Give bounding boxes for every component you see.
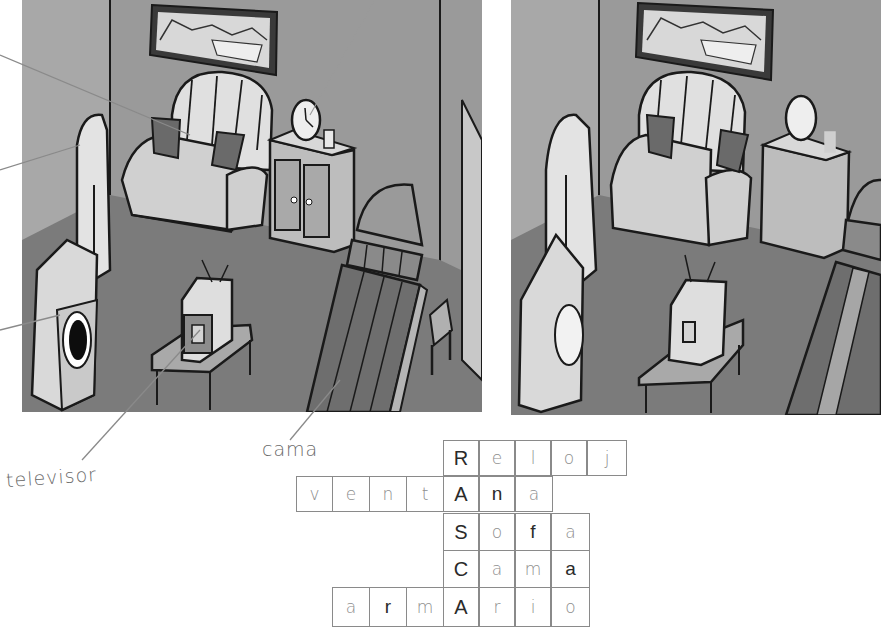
- crossword-cell[interactable]: n: [369, 476, 407, 512]
- crossword-cell[interactable]: A: [443, 587, 479, 627]
- crossword-cell[interactable]: j: [587, 440, 627, 476]
- handwritten-label-televisor: televisor: [5, 463, 97, 491]
- crossword-cell[interactable]: a: [332, 587, 370, 627]
- crossword-cell[interactable]: o: [551, 440, 587, 476]
- crossword-cell[interactable]: a: [515, 476, 553, 512]
- crossword-cell[interactable]: n: [479, 476, 515, 512]
- crossword-cell[interactable]: e: [479, 440, 515, 476]
- crossword-cell[interactable]: R: [443, 440, 479, 476]
- room-illustration-left: [22, 0, 482, 412]
- crossword-cell[interactable]: e: [332, 476, 370, 512]
- crossword-cell[interactable]: C: [443, 550, 479, 588]
- crossword-cell[interactable]: f: [515, 513, 551, 551]
- glass-icon: [324, 130, 334, 148]
- room-scene-left: [22, 0, 482, 412]
- crossword-cell[interactable]: r: [479, 587, 515, 627]
- crossword-cell[interactable]: a: [551, 550, 590, 588]
- washing-machine: [32, 240, 97, 410]
- crossword-cell[interactable]: r: [369, 587, 407, 627]
- crossword-cell[interactable]: m: [515, 550, 551, 588]
- handwritten-label-cama: cama: [262, 438, 318, 460]
- crossword-cell[interactable]: a: [551, 513, 590, 551]
- crossword-cell[interactable]: o: [479, 513, 515, 551]
- crossword-cell[interactable]: i: [515, 587, 551, 627]
- crossword-cell[interactable]: v: [296, 476, 333, 512]
- crossword-cell[interactable]: m: [406, 587, 444, 627]
- crossword-cell[interactable]: o: [551, 587, 590, 627]
- room-illustration-right: [511, 0, 881, 415]
- crossword-cell[interactable]: l: [515, 440, 551, 476]
- crossword-cell[interactable]: S: [443, 513, 479, 551]
- glass-icon: [825, 132, 835, 152]
- clock-icon: [786, 96, 816, 140]
- room-scene-right: [511, 0, 881, 415]
- crossword-cell[interactable]: t: [406, 476, 444, 512]
- crossword-cell[interactable]: A: [443, 476, 479, 512]
- crossword-cell[interactable]: a: [479, 550, 515, 588]
